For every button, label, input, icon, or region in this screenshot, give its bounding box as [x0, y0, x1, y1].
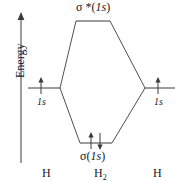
energy-axis-label: Energy	[14, 44, 26, 78]
bonding-orbital-text: 1s	[90, 149, 101, 163]
antibonding-orbital-label: σ *(1s)	[76, 1, 110, 13]
species-label-center: H2	[94, 167, 107, 181]
species-center-symbol: H	[94, 166, 103, 180]
electron-arrow-up-bonding	[88, 132, 93, 149]
bonding-orbital-label: σ(1s)	[80, 150, 105, 162]
atomic-left-orbital-label: 1s	[37, 97, 46, 107]
electron-arrow-up-atomic-right	[155, 77, 160, 94]
bonding-sigma-text: σ(	[80, 149, 90, 163]
energy-axis-arrowhead-icon	[18, 12, 25, 20]
species-center-subscript: 2	[103, 173, 107, 181]
level-bonding-sigma	[80, 132, 112, 150]
atomic-right-orbital-label: 1s	[154, 97, 163, 107]
antibonding-sigma-text: σ *(	[76, 0, 95, 14]
correlation-line-left-antibonding	[60, 21, 76, 88]
bonding-close-paren: )	[101, 149, 105, 163]
species-label-right: H	[153, 167, 162, 179]
level-atomic-left	[28, 77, 60, 94]
correlation-line-right-antibonding	[110, 21, 145, 88]
mo-diagram-figure: Energy σ *(1s) σ(1s) 1s 1s H H2 H	[0, 0, 175, 181]
antibonding-close-paren: )	[106, 0, 110, 14]
electron-arrow-up-atomic-left	[38, 77, 43, 94]
correlation-line-left-bonding	[60, 88, 80, 143]
correlation-line-right-bonding	[112, 88, 145, 143]
energy-axis	[18, 12, 25, 163]
species-label-left: H	[42, 167, 51, 179]
correlation-lines	[60, 21, 145, 143]
electron-arrow-down-bonding	[97, 133, 102, 150]
level-atomic-right	[145, 77, 175, 94]
antibonding-orbital-text: 1s	[95, 0, 106, 14]
